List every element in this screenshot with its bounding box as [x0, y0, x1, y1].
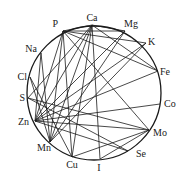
- node-label-s: S: [19, 92, 25, 103]
- edge-ca-mn: [50, 25, 92, 142]
- node-label-se: Se: [136, 148, 147, 159]
- node-label-cu: Cu: [66, 159, 78, 170]
- edge-zn-fe: [35, 71, 158, 121]
- node-label-fe: Fe: [160, 66, 171, 77]
- node-label-mg: Mg: [124, 18, 138, 29]
- node-label-mo: Mo: [153, 127, 167, 138]
- node-label-zn: Zn: [18, 116, 29, 127]
- edge-p-k: [63, 31, 146, 43]
- node-label-co: Co: [164, 98, 176, 109]
- node-label-na: Na: [25, 43, 37, 54]
- node-label-ca: Ca: [86, 12, 98, 23]
- node-label-k: K: [148, 36, 156, 47]
- chord-diagram: PCaMgKFeCoMoSeICuMnZnSClNa: [0, 0, 185, 184]
- node-label-mn: Mn: [37, 142, 51, 153]
- node-label-cl: Cl: [18, 71, 28, 82]
- node-label-i: I: [97, 162, 100, 173]
- node-label-p: P: [52, 18, 58, 29]
